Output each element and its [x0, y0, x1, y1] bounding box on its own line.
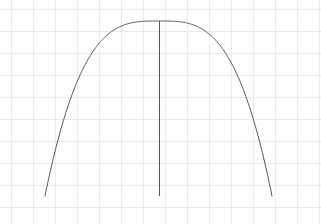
plot-canvas — [0, 0, 321, 224]
arch-curve-path — [45, 21, 272, 196]
curve-layer — [0, 0, 321, 224]
